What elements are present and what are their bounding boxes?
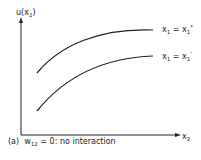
curve-label-lower: x1 = x1' xyxy=(162,52,192,61)
caption: (a) w12 = 0: no interaction xyxy=(8,137,116,146)
x-axis-label: x2 xyxy=(182,132,190,141)
y-axis-label: u(x2) xyxy=(16,8,36,17)
curve-upper xyxy=(37,30,153,73)
curve-label-upper: x1 = x1* xyxy=(162,25,193,34)
diagram-canvas xyxy=(0,0,201,160)
x-axis-arrow-icon xyxy=(175,133,181,137)
y-axis-arrow-icon xyxy=(19,17,23,23)
curve-lower xyxy=(37,56,153,111)
